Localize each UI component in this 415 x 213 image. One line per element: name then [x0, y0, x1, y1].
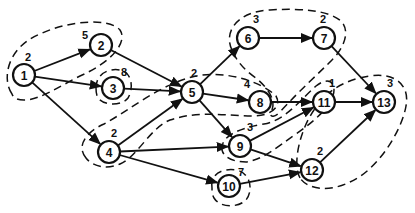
node-label: 6 [245, 32, 252, 46]
node-label: 2 [98, 39, 105, 53]
node-weight: 2 [320, 13, 326, 25]
node-weight: 3 [387, 77, 393, 89]
node-label: 8 [257, 96, 264, 110]
node-10: 107 [218, 166, 244, 197]
node-5: 52 [181, 67, 203, 103]
node-label: 7 [321, 32, 328, 46]
node-weight: 2 [191, 67, 197, 79]
node-weight: 4 [244, 78, 251, 90]
network-diagram: 122538425263728493107111122133 [0, 0, 415, 213]
node-weight: 8 [121, 66, 127, 78]
edge-12-to-13 [320, 110, 375, 162]
node-weight: 2 [317, 145, 323, 157]
node-6: 63 [237, 13, 259, 49]
edge-9-to-12 [250, 149, 300, 166]
node-label: 4 [106, 146, 113, 160]
node-label: 9 [237, 140, 244, 154]
node-weight: 3 [253, 13, 259, 25]
node-weight: 2 [25, 51, 31, 63]
edge-10-to-12 [240, 172, 300, 184]
node-weight: 1 [329, 77, 335, 89]
node-label: 11 [318, 96, 331, 110]
node-label: 12 [305, 164, 319, 178]
edge-1-to-2 [34, 49, 90, 71]
edge-1-to-4 [32, 82, 100, 144]
edge-1-to-3 [35, 77, 101, 87]
node-weight: 3 [247, 121, 253, 133]
node-label: 13 [377, 96, 391, 110]
edge-5-to-8 [203, 94, 248, 101]
node-label: 5 [189, 86, 196, 100]
node-4: 42 [98, 127, 120, 163]
edge-4-to-5 [118, 99, 182, 146]
node-label: 3 [110, 82, 117, 96]
node-2: 25 [82, 29, 112, 56]
edge-3-to-5 [124, 89, 180, 92]
node-12: 122 [301, 145, 323, 181]
edge-5-to-9 [199, 100, 232, 137]
node-9: 93 [229, 121, 253, 157]
edge-4-to-10 [120, 155, 218, 183]
node-weight: 5 [82, 29, 88, 41]
node-label: 10 [222, 180, 236, 194]
edge-4-to-9 [120, 147, 228, 152]
edge-5-to-6 [200, 46, 239, 84]
node-1: 12 [13, 51, 35, 86]
node-7: 72 [313, 13, 335, 49]
node-weight: 2 [111, 127, 117, 139]
node-weight: 7 [238, 166, 244, 178]
node-11: 111 [313, 77, 335, 113]
node-label: 1 [21, 69, 28, 83]
node-13: 133 [373, 77, 395, 113]
